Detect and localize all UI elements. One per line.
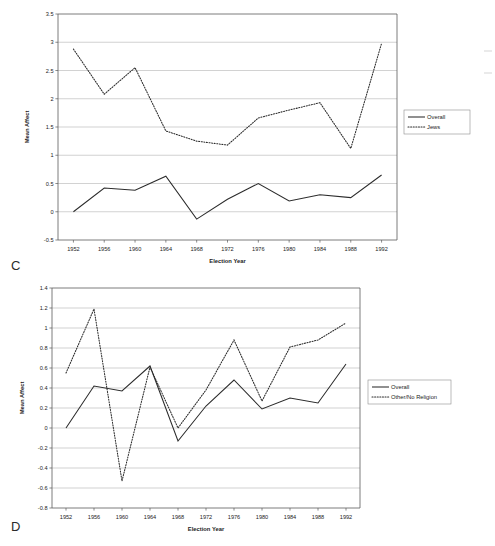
x-tick-label: 1968 <box>172 514 184 520</box>
series-line-other-no-religion <box>66 309 346 481</box>
scan-artifact <box>484 72 492 74</box>
y-tick-label: -0.8 <box>38 505 48 511</box>
legend-box <box>368 380 451 404</box>
y-axis-title: Mean Affect <box>19 382 25 415</box>
x-axis-title: Election Year <box>209 258 246 264</box>
x-tick-label: 1980 <box>256 514 268 520</box>
x-tick-label: 1952 <box>60 514 72 520</box>
y-tick-label: 0.5 <box>46 181 54 187</box>
y-tick-label: -0.4 <box>38 465 48 471</box>
chart-c: -0.500.511.522.533.519521956196019641968… <box>0 0 495 280</box>
scan-artifact <box>484 50 492 52</box>
y-tick-label: 1 <box>44 325 47 331</box>
x-tick-label: 1976 <box>252 246 264 252</box>
series-line-overall <box>73 175 381 219</box>
series-line-overall <box>66 364 346 441</box>
y-tick-label: 1.5 <box>46 124 54 130</box>
y-tick-label: 0.2 <box>40 405 48 411</box>
x-tick-label: 1960 <box>129 246 141 252</box>
x-tick-label: 1988 <box>345 246 357 252</box>
series-line-jews <box>73 43 381 148</box>
x-tick-label: 1992 <box>340 514 352 520</box>
legend-label: Overall <box>391 384 409 390</box>
y-tick-label: 2.5 <box>46 68 54 74</box>
y-tick-label: 1.2 <box>40 305 48 311</box>
x-tick-label: 1988 <box>312 514 324 520</box>
y-tick-label: 0.8 <box>40 345 48 351</box>
panel-letter-d: D <box>11 519 21 534</box>
x-tick-label: 1952 <box>67 246 79 252</box>
x-tick-label: 1972 <box>200 514 212 520</box>
x-tick-label: 1992 <box>375 246 387 252</box>
legend-label: Other/No Religion <box>391 394 437 400</box>
y-tick-label: 3 <box>50 39 53 45</box>
y-tick-label: 3.5 <box>46 11 54 17</box>
y-tick-label: 0 <box>44 425 47 431</box>
legend-label: Jews <box>427 124 440 130</box>
x-tick-label: 1964 <box>160 246 172 252</box>
y-tick-label: -0.5 <box>44 237 54 243</box>
plot-frame <box>52 288 360 508</box>
y-tick-label: 0 <box>50 209 53 215</box>
y-tick-label: 1 <box>50 152 53 158</box>
y-tick-label: 2 <box>50 96 53 102</box>
y-tick-label: -0.6 <box>38 485 48 491</box>
x-tick-label: 1976 <box>228 514 240 520</box>
x-tick-label: 1980 <box>283 246 295 252</box>
y-tick-label: 1.4 <box>40 285 48 291</box>
y-axis-title: Mean Affect <box>24 111 30 144</box>
x-axis-title: Election Year <box>188 526 225 532</box>
y-tick-label: 0.4 <box>40 385 48 391</box>
panel-letter-c: C <box>11 258 21 273</box>
x-tick-label: 1956 <box>98 246 110 252</box>
x-tick-label: 1984 <box>314 246 326 252</box>
x-tick-label: 1960 <box>116 514 128 520</box>
chart-d: -0.8-0.6-0.4-0.200.20.40.60.811.21.41952… <box>0 280 495 546</box>
x-tick-label: 1968 <box>190 246 202 252</box>
legend-label: Overall <box>427 114 445 120</box>
x-tick-label: 1956 <box>88 514 100 520</box>
figure-panel-c: -0.500.511.522.533.519521956196019641968… <box>0 0 495 280</box>
x-tick-label: 1984 <box>284 514 296 520</box>
figure-panel-d: -0.8-0.6-0.4-0.200.20.40.60.811.21.41952… <box>0 280 495 546</box>
y-tick-label: -0.2 <box>38 445 48 451</box>
x-tick-label: 1964 <box>144 514 156 520</box>
y-tick-label: 0.6 <box>40 365 48 371</box>
x-tick-label: 1972 <box>221 246 233 252</box>
